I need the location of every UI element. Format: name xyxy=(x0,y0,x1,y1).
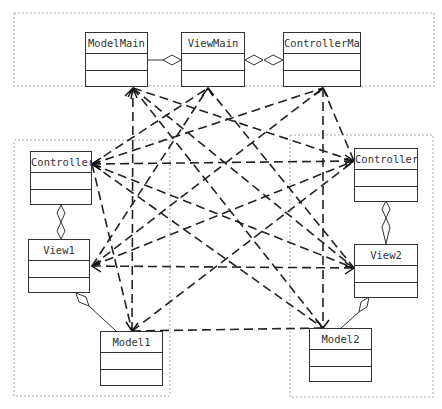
methods-section xyxy=(355,187,417,203)
methods-section xyxy=(29,278,89,294)
class-name: Controller1 xyxy=(31,152,91,173)
diamond-icon xyxy=(264,55,283,65)
class-name: ModelMain xyxy=(86,33,147,54)
class-name: Controller2 xyxy=(355,149,417,170)
methods-section xyxy=(182,71,244,87)
aggregation-links xyxy=(57,55,390,331)
class-name: ViewMain xyxy=(182,33,244,54)
methods-section xyxy=(86,71,147,87)
attributes-section xyxy=(182,54,244,71)
diamond-icon xyxy=(57,205,65,222)
attributes-section xyxy=(310,350,371,367)
diamond-icon xyxy=(163,55,181,65)
class-name: Model2 xyxy=(310,329,371,350)
methods-section xyxy=(310,367,371,383)
attributes-section xyxy=(31,173,91,190)
class-modelmain[interactable]: ModelMain xyxy=(85,32,148,87)
class-name: Model1 xyxy=(101,332,162,353)
attributes-section xyxy=(101,353,162,370)
class-controller1[interactable]: Controller1 xyxy=(30,151,92,205)
attributes-section xyxy=(284,54,360,71)
dependency-arrows xyxy=(92,88,354,331)
methods-section xyxy=(101,370,162,386)
class-controllermain[interactable]: ControllerMain xyxy=(283,32,361,87)
attributes-section xyxy=(29,261,89,278)
class-name: ControllerMain xyxy=(284,33,360,54)
diamond-icon xyxy=(245,55,263,65)
class-view1[interactable]: View1 xyxy=(28,239,90,293)
class-name: View2 xyxy=(355,245,417,266)
methods-section xyxy=(355,283,417,299)
arrowhead-clusters xyxy=(92,88,354,331)
class-name: View1 xyxy=(29,240,89,261)
attributes-section xyxy=(86,54,147,71)
class-model2[interactable]: Model2 xyxy=(309,328,372,382)
diamond-icon xyxy=(382,201,390,218)
diamond-icon xyxy=(57,222,65,239)
diamond-icon xyxy=(359,297,369,312)
class-model1[interactable]: Model1 xyxy=(100,331,163,386)
attributes-section xyxy=(355,170,417,187)
methods-section xyxy=(284,71,360,87)
diamond-icon xyxy=(382,218,390,244)
class-controller2[interactable]: Controller2 xyxy=(354,148,418,202)
methods-section xyxy=(31,190,91,206)
class-viewmain[interactable]: ViewMain xyxy=(181,32,245,87)
class-view2[interactable]: View2 xyxy=(354,244,418,298)
attributes-section xyxy=(355,266,417,283)
diamond-icon xyxy=(76,293,89,306)
